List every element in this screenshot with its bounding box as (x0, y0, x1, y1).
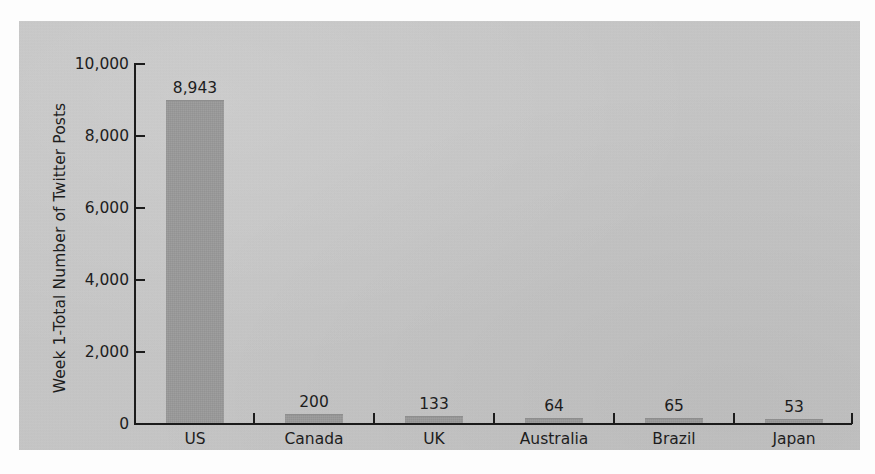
bar-japan[interactable] (765, 419, 823, 423)
bar-value-canada: 200 (299, 393, 329, 411)
bar-group-australia: 64 (495, 63, 613, 423)
y-tick-label-4000: 4,000 (37, 271, 129, 289)
bar-australia[interactable] (525, 418, 583, 423)
bar-canada[interactable] (285, 414, 343, 423)
bar-group-canada: 200 (255, 63, 373, 423)
bar-uk[interactable] (405, 416, 463, 423)
scanned-page: Week 1-Total Number of Twitter Posts 10,… (0, 0, 875, 474)
bar-brazil[interactable] (645, 418, 703, 423)
bar-group-us: 8,943 (136, 63, 254, 423)
caption-fragment (430, 459, 860, 472)
bar-value-us: 8,943 (173, 79, 217, 97)
bar-us[interactable] (166, 100, 224, 423)
bar-group-japan: 53 (735, 63, 853, 423)
bar-chart-panel: Week 1-Total Number of Twitter Posts 10,… (19, 21, 860, 450)
y-axis-tick-labels: 10,000 8,000 6,000 4,000 2,000 0 (29, 21, 129, 450)
bar-group-uk: 133 (375, 63, 493, 423)
bar-value-australia: 64 (544, 397, 564, 415)
bar-group-brazil: 65 (615, 63, 733, 423)
y-tick-label-0: 0 (37, 415, 129, 433)
bar-value-uk: 133 (419, 395, 449, 413)
x-category-label-japan: Japan (735, 430, 853, 448)
y-tick-label-10000: 10,000 (37, 55, 129, 73)
bar-value-japan: 53 (784, 398, 804, 416)
y-tick-label-2000: 2,000 (37, 343, 129, 361)
plot-area: 8,943 200 133 64 65 53 (136, 63, 852, 423)
x-category-label-us: US (136, 430, 254, 448)
x-category-label-brazil: Brazil (615, 430, 733, 448)
x-category-label-australia: Australia (495, 430, 613, 448)
y-tick-label-8000: 8,000 (37, 127, 129, 145)
bar-value-brazil: 65 (664, 397, 684, 415)
y-tick-label-6000: 6,000 (37, 199, 129, 217)
x-category-label-uk: UK (375, 430, 493, 448)
x-category-label-canada: Canada (255, 430, 373, 448)
